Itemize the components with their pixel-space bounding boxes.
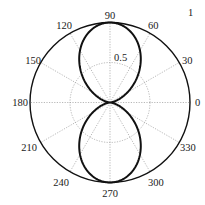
angle-label-90: 90 bbox=[105, 10, 116, 21]
angle-label-210: 210 bbox=[21, 142, 37, 153]
angular-grid-spoke bbox=[70, 103, 110, 172]
angle-label-150: 150 bbox=[25, 55, 41, 66]
angle-label-60: 60 bbox=[148, 20, 159, 31]
angular-grid-spoke bbox=[110, 103, 179, 143]
angular-grid-spoke bbox=[70, 33, 110, 102]
angular-grid-spoke bbox=[110, 63, 179, 103]
angle-label-240: 240 bbox=[53, 177, 69, 188]
radial-tick-label-1: 1 bbox=[188, 7, 193, 18]
angle-label-270: 270 bbox=[102, 188, 118, 199]
radial-tick-label-0.5: 0.5 bbox=[114, 52, 127, 63]
angular-grid-spoke bbox=[110, 103, 150, 172]
angle-label-30: 30 bbox=[182, 55, 193, 66]
angle-label-300: 300 bbox=[148, 177, 164, 188]
angular-grid-spoke bbox=[110, 33, 150, 102]
angle-label-0: 0 bbox=[195, 97, 200, 108]
angular-grid-spoke bbox=[41, 63, 110, 103]
angle-label-330: 330 bbox=[180, 142, 196, 153]
angular-grid-spoke bbox=[41, 103, 110, 143]
polar-chart: 1 0.5 0 30 60 90 120 150 180 210 240 270… bbox=[0, 0, 205, 205]
angle-label-180: 180 bbox=[12, 97, 28, 108]
angle-label-120: 120 bbox=[56, 20, 72, 31]
